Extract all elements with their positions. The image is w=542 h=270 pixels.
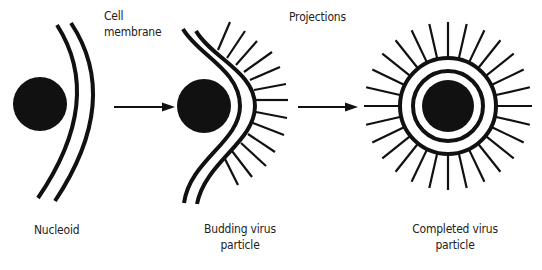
projection-spike [372,126,406,142]
label-projections: Projections [289,9,346,25]
projection-spike [484,135,514,159]
label-budding-line2: particle [188,237,291,253]
projection-spike [412,30,428,64]
projection-spike [396,142,420,172]
projection-spike [412,147,428,181]
label-budding: Budding virus particle [188,221,291,253]
label-completed: Completed virus particle [399,221,511,253]
label-cell-membrane-line2: membrane [104,24,161,40]
projection-spike [468,30,484,64]
budding-core [177,79,231,133]
projection-spike [493,87,530,96]
projection-spike [382,135,412,159]
projection-spike [477,40,501,70]
projection-spike [366,116,403,125]
label-completed-line2: particle [399,237,511,253]
label-nucleoid: Nucleoid [34,222,79,238]
projection-spike [489,70,523,86]
arrow-2 [298,103,358,112]
stage-completed [364,22,532,190]
nucleoid-core [13,77,67,131]
stage-budding [177,22,288,204]
projection-spike [458,151,467,188]
projection-spike [382,54,412,78]
arrow-1 [114,103,175,112]
label-cell-membrane: Cell membrane [104,8,161,40]
projection-spike [468,147,484,181]
projection-spike [489,126,523,142]
projection-spike [372,70,406,86]
projection-spike [484,54,514,78]
label-budding-line1: Budding virus [188,221,291,237]
projection-spike [493,116,530,125]
projection-spike [366,87,403,96]
completed-core [422,80,474,132]
projection-spike [396,40,420,70]
projection-spike [477,142,501,172]
stage-nucleoid [13,23,93,201]
label-cell-membrane-line1: Cell [104,8,161,24]
projection-spike [458,24,467,61]
projection-spike [429,151,438,188]
label-completed-line1: Completed virus [399,221,511,237]
projection-spike [429,24,438,61]
